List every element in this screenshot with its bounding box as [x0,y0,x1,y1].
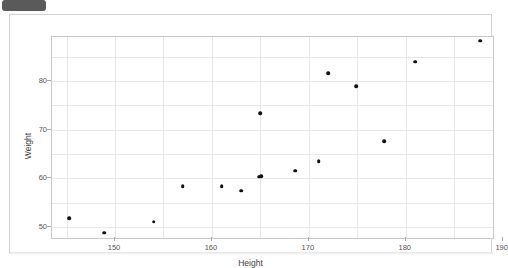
data-point[interactable] [220,184,224,188]
gridline-horizontal [52,203,493,204]
gridline-vertical [67,37,68,238]
gridline-vertical [357,37,358,238]
gridline-vertical [454,37,455,238]
data-point[interactable] [479,39,483,43]
y-tick-mark [47,129,51,130]
scatter-plot-area[interactable] [51,36,494,239]
gridline-vertical [309,37,310,238]
data-point[interactable] [383,140,387,144]
gridline-horizontal [52,105,493,106]
gridline-horizontal [52,178,493,179]
y-tick-mark [47,177,51,178]
data-point[interactable] [68,216,72,220]
x-tick-label: 190 [495,243,508,252]
data-point[interactable] [103,231,107,235]
chart-card: Height Weight 15016017018019050607080 [9,14,492,254]
gridline-vertical [406,37,407,238]
gridline-vertical [260,37,261,238]
x-tick-label: 150 [108,243,121,252]
x-tick-mark [308,237,309,241]
gridline-horizontal [52,227,493,228]
x-tick-label: 160 [205,243,218,252]
data-point[interactable] [317,159,321,163]
x-tick-label: 180 [399,243,412,252]
gridline-vertical [212,37,213,238]
gridline-horizontal [52,154,493,155]
x-tick-label: 170 [302,243,315,252]
top-left-badge[interactable] [2,0,46,11]
gridline-vertical [115,37,116,238]
x-tick-mark [211,237,212,241]
x-tick-mark [405,237,406,241]
y-tick-label: 60 [31,173,47,182]
y-tick-mark [47,226,51,227]
gridline-horizontal [52,81,493,82]
gridline-horizontal [52,57,493,58]
data-point[interactable] [152,220,156,224]
data-point[interactable] [259,111,263,115]
x-axis-title: Height [10,258,491,268]
data-point[interactable] [239,189,243,193]
y-tick-label: 50 [31,222,47,231]
data-point[interactable] [414,60,418,64]
y-tick-mark [47,80,51,81]
data-point[interactable] [181,184,185,188]
data-point[interactable] [355,84,359,88]
y-tick-label: 80 [31,75,47,84]
data-point[interactable] [326,71,330,75]
y-tick-label: 70 [31,124,47,133]
card-shadow [10,252,493,255]
x-tick-mark [114,237,115,241]
data-point[interactable] [293,169,297,173]
x-tick-mark [502,237,503,241]
gridline-vertical [163,37,164,238]
data-point[interactable] [258,175,262,179]
gridline-horizontal [52,130,493,131]
y-axis-title: Weight [23,133,33,159]
